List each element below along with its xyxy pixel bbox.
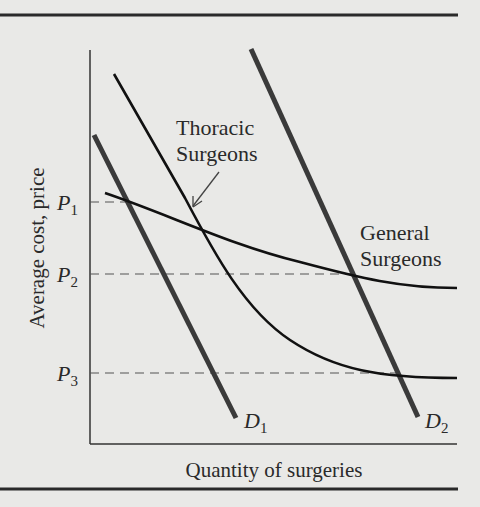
thoracic-label-line1: Thoracic [176, 115, 254, 140]
y-axis-label: Average cost, price [25, 167, 49, 328]
thoracic-label-line2: Surgeons [176, 141, 258, 166]
general-label-line2: Surgeons [360, 246, 442, 271]
p3-label: P3 [56, 361, 78, 389]
general-label-line1: General [360, 220, 430, 245]
p1-label: P1 [56, 190, 78, 218]
arrowhead-icon [193, 196, 202, 207]
p2-label: P2 [56, 262, 78, 290]
chart-canvas: Thoracic Surgeons General Surgeons P1 P2… [0, 0, 480, 507]
x-axis-label: Quantity of surgeries [186, 458, 363, 482]
thoracic-arrow [193, 172, 219, 206]
d2-label: D2 [424, 408, 448, 436]
d1-label: D1 [243, 408, 267, 436]
